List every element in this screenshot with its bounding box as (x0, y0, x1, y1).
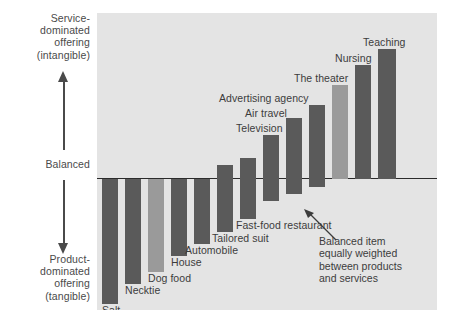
axis-label-service-dominated: Service- dominated offering (intangible) (2, 12, 90, 61)
bar-automobile (194, 179, 210, 244)
bar-label-air-travel: Air travel (245, 108, 287, 120)
bar-label-dog-food: Dog food (148, 273, 191, 285)
bar-label-nursing: Nursing (335, 53, 372, 65)
bar-label-advertising-agency: Advertising agency (219, 93, 309, 105)
bar-fast-food-restaurant (240, 158, 256, 219)
bar-advertising-agency (309, 105, 325, 187)
bar-label-house: House (171, 257, 202, 269)
chart-root: Service- dominated offering (intangible)… (0, 0, 455, 325)
bar-label-salt: Salt (102, 305, 120, 310)
axis-label-balanced: Balanced (2, 158, 90, 170)
plot-panel: SaltNecktieDog foodHouseAutomobileTailor… (97, 13, 437, 310)
bar-label-automobile: Automobile (185, 245, 238, 257)
bar-label-teaching: Teaching (363, 37, 405, 49)
annotation-text: Balanced item equally weighted between p… (319, 235, 402, 285)
up-arrow-icon (58, 71, 68, 82)
bar-television (263, 135, 279, 201)
axis-label-product-dominated: Product- dominated offering (tangible) (2, 253, 90, 302)
bar-necktie (125, 179, 141, 284)
bar-dog-food (148, 179, 164, 272)
bar-label-necktie: Necktie (125, 285, 160, 297)
bar-tailored-suit (217, 165, 233, 232)
bar-salt (102, 179, 118, 304)
bar-the-theater (332, 85, 348, 179)
bar-label-the-theater: The theater (294, 73, 348, 85)
down-arrow-shaft (63, 180, 65, 245)
bar-label-television: Television (236, 123, 283, 135)
up-arrow-shaft (63, 80, 65, 150)
bar-nursing (355, 65, 371, 179)
bar-label-tailored-suit: Tailored suit (212, 233, 269, 245)
bar-air-travel (286, 118, 302, 194)
bar-teaching (378, 49, 396, 179)
